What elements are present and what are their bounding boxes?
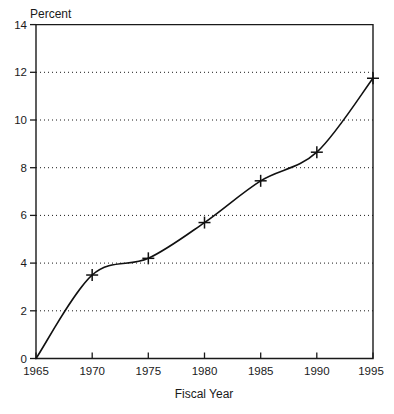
ytick-label-10: 10 bbox=[14, 114, 27, 126]
ytick-label-6: 6 bbox=[21, 209, 27, 221]
data-point-1995 bbox=[367, 72, 379, 84]
data-point-1980 bbox=[199, 217, 211, 229]
data-point-1975 bbox=[142, 252, 154, 264]
ytick-label-2: 2 bbox=[21, 305, 27, 317]
ytick-label-0: 0 bbox=[21, 353, 27, 365]
x-axis-tick-labels: 1965 1970 1975 1980 1985 1990 1995 bbox=[23, 365, 384, 377]
ytick-label-8: 8 bbox=[21, 162, 27, 174]
line-chart: Percent 14 12 10 8 bbox=[0, 0, 394, 414]
xtick-label-1970: 1970 bbox=[79, 365, 105, 377]
ytick-label-14: 14 bbox=[14, 19, 27, 31]
xtick-label-1980: 1980 bbox=[192, 365, 218, 377]
xtick-label-1990: 1990 bbox=[304, 365, 330, 377]
x-axis-title: Fiscal Year bbox=[175, 387, 234, 401]
y-axis-ticks bbox=[30, 25, 36, 359]
plot-frame bbox=[36, 25, 373, 359]
ytick-label-4: 4 bbox=[21, 257, 28, 269]
data-markers bbox=[86, 72, 379, 281]
xtick-label-1975: 1975 bbox=[136, 365, 162, 377]
xtick-label-1995: 1995 bbox=[358, 365, 384, 377]
xtick-label-1965: 1965 bbox=[23, 365, 49, 377]
ytick-label-12: 12 bbox=[14, 66, 27, 78]
x-axis-ticks bbox=[36, 353, 373, 359]
chart-container: Percent 14 12 10 8 bbox=[0, 0, 394, 414]
y-axis-tick-labels: 14 12 10 8 6 4 2 0 bbox=[14, 19, 27, 365]
y-axis-title: Percent bbox=[30, 7, 72, 21]
xtick-label-1985: 1985 bbox=[248, 365, 274, 377]
data-point-1985 bbox=[255, 175, 267, 187]
